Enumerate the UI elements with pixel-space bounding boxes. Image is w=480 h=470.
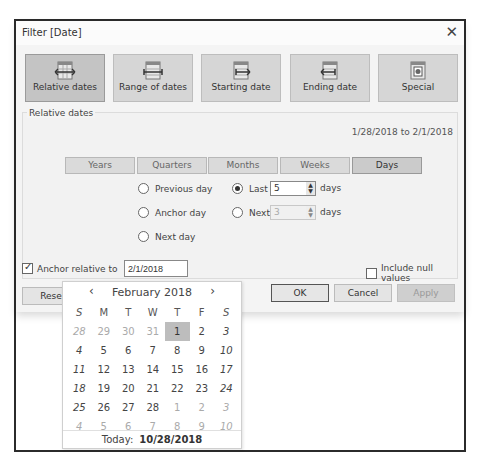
radio-button[interactable] [138,231,149,242]
calendar-day[interactable]: 25 [67,398,92,417]
next-month-icon[interactable]: › [210,284,215,298]
calendar-day[interactable]: 3 [214,398,239,417]
calendar-day[interactable]: 2 [190,398,215,417]
calendar-day[interactable]: 3 [214,322,239,341]
calendar-day[interactable]: 20 [116,379,141,398]
mode-label: Relative dates [26,82,104,92]
radio-label: Next [249,208,270,218]
calendar-day[interactable]: 29 [92,322,117,341]
anchor-relative-checkbox[interactable]: Anchor relative to [22,263,117,274]
radio-button[interactable] [232,207,243,218]
filter-dialog: Filter [Date] ✕ Relative dates [16,21,464,312]
weekday-label: M [92,303,117,322]
tab-days[interactable]: Days [352,157,422,174]
calendar-week-row: 11 12 13 14 15 16 17 [67,360,239,379]
title-bar: Filter [Date] ✕ [16,21,464,45]
mode-relative-dates[interactable]: Relative dates [25,54,105,102]
close-icon[interactable]: ✕ [445,23,458,41]
radio-anchor-day[interactable]: Anchor day [138,207,206,218]
radio-last[interactable]: Last [232,183,268,194]
calendar-day[interactable]: 6 [116,341,141,360]
today-label: Today: [102,434,134,445]
mode-ending-date[interactable]: Ending date [290,54,370,102]
calendar-day[interactable]: 26 [92,398,117,417]
calendar-day[interactable]: 27 [116,398,141,417]
calendar-day[interactable]: 9 [190,341,215,360]
calendar-day[interactable]: 23 [190,379,215,398]
weekday-label: S [67,303,92,322]
checkbox-label: Anchor relative to [37,264,117,274]
calendar-day[interactable]: 30 [116,322,141,341]
ok-button[interactable]: OK [271,284,329,302]
unit-label: days [320,207,341,217]
calendar-day[interactable]: 21 [141,379,166,398]
radio-button[interactable] [138,207,149,218]
cancel-button[interactable]: Cancel [334,284,392,302]
radio-button[interactable] [138,183,149,194]
calendar-week-row: 4 5 6 7 8 9 10 [67,341,239,360]
mode-label: Range of dates [114,82,192,92]
include-null-checkbox[interactable]: Include null values [366,263,464,283]
tab-weeks[interactable]: Weeks [280,157,350,174]
mode-special[interactable]: Special [378,54,458,102]
calendar-day[interactable]: 12 [92,360,117,379]
checkbox[interactable] [366,268,377,279]
stepper-value: 3 [274,207,280,217]
calendar-day[interactable]: 10 [214,341,239,360]
calendar-day[interactable]: 17 [214,360,239,379]
spinner-arrows-icon[interactable]: ▲▼ [306,182,315,195]
next-count-stepper[interactable]: 3 ▲▼ [270,205,316,220]
calendar-week-row: 28 29 30 31 1 2 3 [67,322,239,341]
checkbox[interactable] [22,263,33,274]
calendar-day[interactable]: 13 [116,360,141,379]
tab-years[interactable]: Years [65,157,135,174]
calendar-day-selected[interactable]: 1 [165,322,190,341]
date-picker-popup: ‹ February 2018 › S M T W T F S 28 29 30… [62,281,242,449]
calendar-day[interactable]: 28 [141,398,166,417]
calendar-left-arrow-icon [319,61,341,81]
radio-next-day[interactable]: Next day [138,231,195,242]
calendar-special-icon [407,61,429,81]
spinner-arrows-icon[interactable]: ▲▼ [306,206,315,219]
calendar-day[interactable]: 1 [165,398,190,417]
radio-label: Last [249,184,268,194]
weekday-header-row: S M T W T F S [67,303,239,322]
calendar-day[interactable]: 7 [141,341,166,360]
today-link[interactable]: Today:10/28/2018 [63,430,241,448]
calendar-day[interactable]: 24 [214,379,239,398]
unit-label: days [320,183,341,193]
calendar-day[interactable]: 18 [67,379,92,398]
radio-label: Anchor day [155,208,206,218]
mode-range-of-dates[interactable]: Range of dates [113,54,193,102]
calendar-day[interactable]: 14 [141,360,166,379]
date-range-summary: 1/28/2018 to 2/1/2018 [352,127,453,137]
tab-months[interactable]: Months [208,157,278,174]
calendar-day[interactable]: 15 [165,360,190,379]
calendar-day[interactable]: 19 [92,379,117,398]
calendar-day[interactable]: 4 [67,341,92,360]
weekday-label: T [165,303,190,322]
relative-dates-group: Relative dates 1/28/2018 to 2/1/2018 Yea… [22,112,458,279]
calendar-week-row: 25 26 27 28 1 2 3 [67,398,239,417]
mode-label: Special [379,82,457,92]
calendar-day[interactable]: 22 [165,379,190,398]
group-label: Relative dates [27,108,95,118]
radio-label: Next day [155,232,195,242]
mode-label: Ending date [291,82,369,92]
calendar-day[interactable]: 8 [165,341,190,360]
apply-button[interactable]: Apply [397,284,455,302]
calendar-day[interactable]: 31 [141,322,166,341]
calendar-day[interactable]: 2 [190,322,215,341]
calendar-day[interactable]: 5 [92,341,117,360]
calendar-day[interactable]: 11 [67,360,92,379]
last-count-stepper[interactable]: 5 ▲▼ [270,181,316,196]
radio-next[interactable]: Next [232,207,270,218]
mode-starting-date[interactable]: Starting date [201,54,281,102]
anchor-date-input[interactable] [124,260,188,277]
calendar-day[interactable]: 16 [190,360,215,379]
tab-quarters[interactable]: Quarters [137,157,207,174]
calendar-day[interactable]: 28 [67,322,92,341]
radio-button[interactable] [232,183,243,194]
weekday-label: S [214,303,239,322]
radio-previous-day[interactable]: Previous day [138,183,212,194]
